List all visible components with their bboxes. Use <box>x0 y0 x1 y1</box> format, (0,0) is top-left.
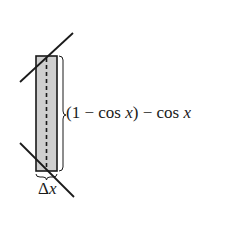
height-brace <box>59 56 66 171</box>
height-label-var2: x <box>183 103 191 122</box>
width-label-var: x <box>49 179 57 198</box>
height-label-open: (1 − cos <box>66 103 125 122</box>
height-label-mid: ) − cos <box>133 103 184 122</box>
height-label: (1 − cos x) − cos x <box>66 103 191 123</box>
height-label-var1: x <box>125 103 133 122</box>
width-label: Δx <box>38 179 56 199</box>
width-label-delta: Δ <box>38 179 49 198</box>
